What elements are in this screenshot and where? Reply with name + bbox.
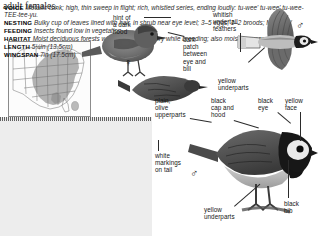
info-label-feeding: FEEDING (4, 27, 32, 34)
leader-plain-olive (190, 118, 212, 123)
info-text-wingspan: 7in (17.5cm) (40, 51, 76, 58)
info-label-length: LENGTH (4, 43, 30, 50)
info-text-length: 5¼in (13.5cm) (32, 43, 73, 50)
leader-black-bib (288, 160, 289, 198)
callout-dark-patch: dark patch between eye and bill (183, 36, 213, 72)
callout-black-eye: black eye (258, 97, 288, 111)
callout-hint-of-dark-hood: hint of a dark hood (113, 14, 147, 36)
leader-white-markings (158, 140, 159, 151)
info-label-wingspan: WINGSPAN (4, 51, 38, 58)
leader-hint-hood (144, 17, 171, 18)
panel-top-rule (0, 117, 152, 121)
leader-yellow-face (300, 112, 301, 141)
male-symbol-flight: ♂ (296, 20, 304, 31)
female-symbol: ♀ (124, 57, 132, 68)
callout-black-bib: black bib (284, 200, 314, 214)
leader-whitish-undertail (240, 33, 241, 52)
callout-yellow-face: yellow face (285, 97, 315, 111)
info-label-nesting: NESTING (4, 19, 32, 26)
callout-plain-olive-upperparts: plain, olive upperparts (155, 97, 195, 119)
callout-yellow-underparts-bottom: yellow underparts (204, 206, 244, 220)
male-symbol-perched: ♂ (190, 168, 198, 179)
callout-black-cap-and-hood: black cap and hood (211, 97, 241, 119)
callout-yellow-underparts-top: yellow underparts (218, 77, 258, 91)
field-guide-page: adult females. (0, 0, 318, 236)
callout-white-markings-on-tail: white markings on tail (155, 152, 185, 174)
info-label-voice: VOICE (4, 4, 24, 11)
callout-whitish-undertail: whitish undertail feathers (213, 11, 253, 33)
info-label-habitat: HABITAT (4, 35, 31, 42)
species-info-panel (0, 117, 152, 236)
